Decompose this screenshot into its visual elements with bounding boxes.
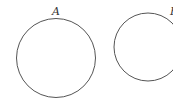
diagram-canvas: A B	[0, 0, 173, 98]
circle-b	[114, 13, 173, 81]
sets-diagram: A B	[0, 0, 173, 98]
circle-a	[17, 19, 96, 98]
label-b: B	[169, 5, 173, 18]
label-a: A	[51, 5, 60, 18]
